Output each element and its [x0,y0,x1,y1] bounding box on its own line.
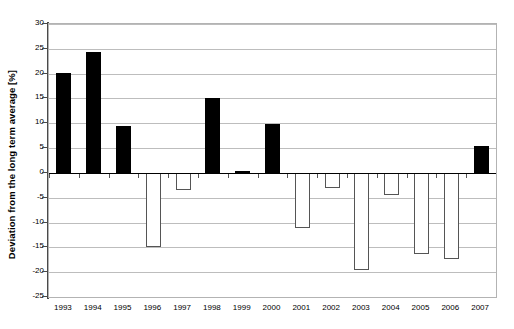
x-axis-tick-mark [347,174,348,178]
zero-line [49,173,496,174]
bar [56,73,71,173]
y-axis-tick-mark [42,147,47,148]
y-axis-tick-label: -5 [22,193,44,201]
gridline [49,24,496,25]
y-axis-tick-label: 5 [22,143,44,151]
bar [176,173,191,190]
x-axis-tick-label: 2002 [322,303,340,313]
y-axis-tick-label: 20 [22,69,44,77]
x-axis-tick-label: 2005 [412,303,430,313]
y-axis-tick-mark [42,23,47,24]
y-axis-tick-label: -25 [22,292,44,300]
bar [354,173,369,270]
x-axis-tick-mark [168,174,169,178]
y-axis-tick-labels: 302520151050-5-10-15-20-25 [22,23,44,298]
bar [444,173,459,259]
x-axis-tick-label: 2003 [352,303,370,313]
x-axis-tick-label: 2006 [441,303,459,313]
bar [325,173,340,188]
y-axis-tick-mark [42,246,47,247]
x-axis-tick-label: 1998 [203,303,221,313]
y-axis-tick-mark [42,122,47,123]
x-axis-tick-label: 1999 [233,303,251,313]
x-axis-tick-mark [377,174,378,178]
y-axis-tick-label: 30 [22,19,44,27]
x-axis-tick-mark [466,174,467,178]
bar [205,98,220,172]
x-axis-tick-label: 1994 [84,303,102,313]
y-axis-title: Deviation from the long term average [%] [0,0,22,329]
y-axis-tick-label: 25 [22,44,44,52]
y-axis-tick-mark [42,197,47,198]
bar [414,173,429,254]
x-axis-tick-label: 1993 [54,303,72,313]
x-axis-tick-mark [407,174,408,178]
y-axis-tick-mark [42,48,47,49]
x-axis-tick-mark [138,174,139,178]
gridline [49,74,496,75]
plot-area [48,23,497,298]
x-axis-tick-mark [436,174,437,178]
x-axis-tick-mark [79,174,80,178]
x-axis-tick-mark [228,174,229,178]
y-axis-tick-mark [42,97,47,98]
x-axis-tick-label: 1996 [143,303,161,313]
x-axis-tick-mark [198,174,199,178]
x-axis-tick-label: 1995 [114,303,132,313]
x-axis-tick-labels: 1993199419951996199719981999200020012002… [48,303,497,317]
x-axis-tick-label: 2007 [471,303,489,313]
bar [295,173,310,228]
x-axis-tick-label: 1997 [173,303,191,313]
x-axis-tick-mark [287,174,288,178]
y-axis-tick-mark [42,296,47,297]
bar-chart: Deviation from the long term average [%]… [0,0,514,329]
gridline [49,49,496,50]
x-axis-tick-mark [496,174,497,178]
y-axis-tick-mark [42,271,47,272]
gridline [49,272,496,273]
x-axis-tick-mark [317,174,318,178]
bar [384,173,399,195]
gridline [49,98,496,99]
y-axis-tick-label: 0 [22,168,44,176]
y-axis-tick-label: -15 [22,242,44,250]
x-axis-tick-mark [49,174,50,178]
y-axis-tick-label: -10 [22,218,44,226]
x-axis-tick-label: 2001 [292,303,310,313]
bar [86,52,101,173]
bar [265,124,280,173]
gridline [49,297,496,298]
y-axis-tick-label: 15 [22,93,44,101]
x-axis-tick-label: 2004 [382,303,400,313]
y-axis-tick-mark [42,73,47,74]
bar [146,173,161,247]
y-axis-tick-mark [42,172,47,173]
y-axis-tick-label: -20 [22,267,44,275]
y-axis-tick-mark [42,222,47,223]
x-axis-tick-mark [109,174,110,178]
bar [116,126,131,173]
x-axis-tick-label: 2000 [263,303,281,313]
bar [474,146,489,173]
x-axis-tick-mark [258,174,259,178]
y-axis-tick-label: 10 [22,118,44,126]
